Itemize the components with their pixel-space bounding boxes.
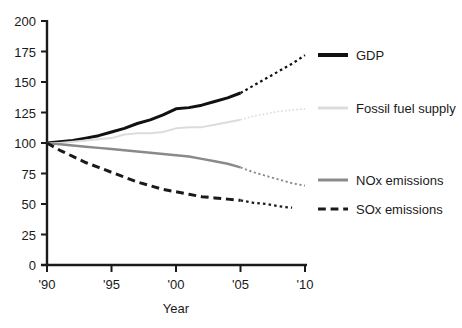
legend-label: NOx emissions — [356, 173, 444, 188]
series-lines — [47, 55, 305, 208]
x-tick-label: '90 — [39, 277, 56, 292]
y-tick-label: 0 — [29, 258, 36, 273]
line-chart: 0255075100125150175200 '90'95'00'05'10 Y… — [0, 0, 462, 328]
x-axis-label: Year — [163, 301, 190, 316]
x-tick-label: '00 — [168, 277, 185, 292]
y-axis-tick-labels: 0255075100125150175200 — [14, 14, 36, 273]
y-tick-label: 75 — [22, 167, 36, 182]
y-tick-label: 200 — [14, 14, 36, 29]
y-tick-label: 175 — [14, 45, 36, 60]
legend-label: SOx emissions — [356, 202, 443, 217]
x-tick-label: '95 — [103, 277, 120, 292]
series-line-historical — [47, 93, 241, 143]
y-tick-label: 150 — [14, 75, 36, 90]
series-line-projection — [241, 55, 306, 93]
series-line-projection — [241, 109, 306, 120]
x-tick-label: '05 — [232, 277, 249, 292]
chart-container: 0255075100125150175200 '90'95'00'05'10 Y… — [0, 0, 462, 328]
y-tick-label: 25 — [22, 228, 36, 243]
legend-label: GDP — [356, 48, 384, 63]
y-tick-label: 50 — [22, 197, 36, 212]
series-line-projection — [241, 167, 306, 185]
chart-legend: GDPFossil fuel supplyNOx emissionsSOx em… — [318, 48, 456, 217]
x-tick-label: '10 — [297, 277, 314, 292]
series-line-projection — [241, 200, 293, 207]
y-tick-label: 125 — [14, 106, 36, 121]
x-axis-title: Year — [163, 301, 190, 316]
series-line-historical — [47, 143, 241, 167]
legend-label: Fossil fuel supply — [356, 101, 456, 116]
y-tick-label: 100 — [14, 136, 36, 151]
x-axis-tick-labels: '90'95'00'05'10 — [39, 277, 314, 292]
